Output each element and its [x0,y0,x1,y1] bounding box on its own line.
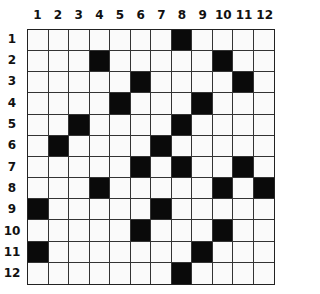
white-cell-r3-c9[interactable] [192,72,213,93]
white-cell-r8-c7[interactable] [151,178,172,199]
white-cell-r8-c9[interactable] [192,178,213,199]
white-cell-r3-c7[interactable] [151,72,172,93]
white-cell-r9-c4[interactable] [90,199,111,220]
white-cell-r11-c5[interactable] [110,242,131,263]
white-cell-r6-c5[interactable] [110,136,131,157]
white-cell-r6-c11[interactable] [233,136,254,157]
white-cell-r12-c3[interactable] [69,263,90,284]
white-cell-r7-c12[interactable] [254,157,275,178]
white-cell-r12-c1[interactable] [28,263,49,284]
white-cell-r1-c3[interactable] [69,30,90,51]
white-cell-r7-c9[interactable] [192,157,213,178]
white-cell-r6-c4[interactable] [90,136,111,157]
black-cell-r4-c9[interactable] [192,93,213,114]
white-cell-r3-c5[interactable] [110,72,131,93]
white-cell-r5-c11[interactable] [233,115,254,136]
white-cell-r12-c7[interactable] [151,263,172,284]
white-cell-r3-c2[interactable] [49,72,70,93]
white-cell-r11-c11[interactable] [233,242,254,263]
black-cell-r3-c11[interactable] [233,72,254,93]
white-cell-r1-c2[interactable] [49,30,70,51]
white-cell-r12-c5[interactable] [110,263,131,284]
black-cell-r4-c5[interactable] [110,93,131,114]
white-cell-r5-c12[interactable] [254,115,275,136]
white-cell-r12-c12[interactable] [254,263,275,284]
white-cell-r11-c4[interactable] [90,242,111,263]
white-cell-r12-c4[interactable] [90,263,111,284]
black-cell-r2-c10[interactable] [213,51,234,72]
white-cell-r5-c4[interactable] [90,115,111,136]
white-cell-r7-c5[interactable] [110,157,131,178]
white-cell-r11-c2[interactable] [49,242,70,263]
black-cell-r11-c1[interactable] [28,242,49,263]
white-cell-r1-c9[interactable] [192,30,213,51]
white-cell-r4-c11[interactable] [233,93,254,114]
white-cell-r9-c3[interactable] [69,199,90,220]
white-cell-r7-c1[interactable] [28,157,49,178]
black-cell-r7-c6[interactable] [131,157,152,178]
white-cell-r2-c12[interactable] [254,51,275,72]
black-cell-r10-c6[interactable] [131,220,152,241]
white-cell-r4-c10[interactable] [213,93,234,114]
white-cell-r7-c3[interactable] [69,157,90,178]
white-cell-r11-c10[interactable] [213,242,234,263]
white-cell-r12-c2[interactable] [49,263,70,284]
black-cell-r1-c8[interactable] [172,30,193,51]
white-cell-r5-c2[interactable] [49,115,70,136]
white-cell-r2-c5[interactable] [110,51,131,72]
white-cell-r12-c6[interactable] [131,263,152,284]
white-cell-r8-c11[interactable] [233,178,254,199]
black-cell-r9-c1[interactable] [28,199,49,220]
black-cell-r3-c6[interactable] [131,72,152,93]
white-cell-r8-c3[interactable] [69,178,90,199]
black-cell-r9-c7[interactable] [151,199,172,220]
white-cell-r9-c12[interactable] [254,199,275,220]
white-cell-r3-c8[interactable] [172,72,193,93]
white-cell-r8-c1[interactable] [28,178,49,199]
white-cell-r9-c8[interactable] [172,199,193,220]
white-cell-r7-c4[interactable] [90,157,111,178]
white-cell-r1-c5[interactable] [110,30,131,51]
white-cell-r6-c6[interactable] [131,136,152,157]
white-cell-r4-c3[interactable] [69,93,90,114]
black-cell-r5-c3[interactable] [69,115,90,136]
black-cell-r5-c8[interactable] [172,115,193,136]
white-cell-r6-c8[interactable] [172,136,193,157]
black-cell-r11-c9[interactable] [192,242,213,263]
white-cell-r1-c6[interactable] [131,30,152,51]
black-cell-r7-c11[interactable] [233,157,254,178]
white-cell-r7-c2[interactable] [49,157,70,178]
white-cell-r10-c8[interactable] [172,220,193,241]
white-cell-r5-c6[interactable] [131,115,152,136]
white-cell-r10-c12[interactable] [254,220,275,241]
white-cell-r3-c3[interactable] [69,72,90,93]
white-cell-r8-c5[interactable] [110,178,131,199]
white-cell-r10-c1[interactable] [28,220,49,241]
white-cell-r10-c5[interactable] [110,220,131,241]
white-cell-r12-c11[interactable] [233,263,254,284]
white-cell-r3-c4[interactable] [90,72,111,93]
white-cell-r4-c12[interactable] [254,93,275,114]
white-cell-r1-c11[interactable] [233,30,254,51]
white-cell-r1-c10[interactable] [213,30,234,51]
white-cell-r5-c9[interactable] [192,115,213,136]
white-cell-r2-c3[interactable] [69,51,90,72]
white-cell-r9-c10[interactable] [213,199,234,220]
white-cell-r4-c1[interactable] [28,93,49,114]
white-cell-r9-c11[interactable] [233,199,254,220]
white-cell-r6-c3[interactable] [69,136,90,157]
black-cell-r6-c2[interactable] [49,136,70,157]
white-cell-r11-c6[interactable] [131,242,152,263]
white-cell-r11-c12[interactable] [254,242,275,263]
white-cell-r10-c2[interactable] [49,220,70,241]
white-cell-r2-c7[interactable] [151,51,172,72]
white-cell-r4-c2[interactable] [49,93,70,114]
white-cell-r5-c1[interactable] [28,115,49,136]
white-cell-r12-c10[interactable] [213,263,234,284]
black-cell-r10-c10[interactable] [213,220,234,241]
white-cell-r3-c10[interactable] [213,72,234,93]
white-cell-r9-c6[interactable] [131,199,152,220]
white-cell-r2-c9[interactable] [192,51,213,72]
white-cell-r9-c2[interactable] [49,199,70,220]
white-cell-r10-c9[interactable] [192,220,213,241]
